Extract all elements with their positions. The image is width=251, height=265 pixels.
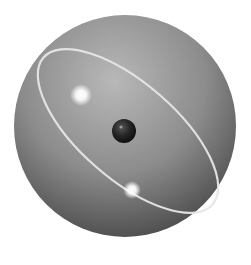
sphere-diagram bbox=[0, 0, 251, 265]
glow-point-lower bbox=[123, 181, 141, 199]
glow-point-upper bbox=[70, 84, 92, 106]
core-highlight bbox=[120, 126, 123, 129]
core-ball bbox=[112, 119, 136, 143]
